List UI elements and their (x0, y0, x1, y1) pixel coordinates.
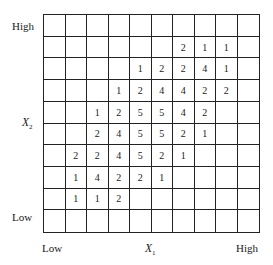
grid-cell (173, 189, 195, 211)
grid-cell (195, 167, 217, 189)
grid-cell: 4 (195, 58, 217, 80)
grid-cell: 2 (87, 145, 109, 167)
grid-cell: 1 (195, 37, 217, 59)
grid-cell: 1 (216, 37, 238, 59)
grid-cell (173, 210, 195, 232)
grid-cell (216, 167, 238, 189)
grid-cell (130, 189, 152, 211)
grid-cell: 1 (66, 167, 88, 189)
grid-cell: 1 (152, 167, 174, 189)
grid-cell (44, 124, 66, 146)
grid-cell: 5 (130, 102, 152, 124)
grid-cell (238, 102, 260, 124)
frequency-grid: 2111224112442212554224552122452114221112 (43, 14, 260, 233)
grid-cell: 5 (130, 145, 152, 167)
grid-cell (173, 167, 195, 189)
x-low-label: Low (42, 242, 62, 254)
grid-cell (44, 58, 66, 80)
grid-cell (109, 15, 131, 37)
grid-cell (216, 210, 238, 232)
grid-cell (238, 189, 260, 211)
grid-cell (238, 124, 260, 146)
grid-cell (216, 145, 238, 167)
grid-cell (66, 15, 88, 37)
grid-cell: 2 (109, 102, 131, 124)
grid-cell: 2 (87, 124, 109, 146)
grid-cell: 2 (109, 189, 131, 211)
grid-cell (66, 37, 88, 59)
grid-cell (238, 145, 260, 167)
grid-cell: 2 (173, 37, 195, 59)
grid-cell (130, 15, 152, 37)
grid-cell: 2 (173, 124, 195, 146)
grid-cell (216, 124, 238, 146)
grid-cell: 4 (109, 145, 131, 167)
grid-cell (44, 37, 66, 59)
x-high-label: High (236, 242, 258, 254)
grid-cell: 2 (130, 80, 152, 102)
grid-cell (109, 37, 131, 59)
grid-cell: 5 (152, 124, 174, 146)
grid-cell (66, 124, 88, 146)
grid-cell (44, 189, 66, 211)
grid-cell (216, 15, 238, 37)
grid-cell: 2 (130, 167, 152, 189)
grid-cell (44, 80, 66, 102)
grid-cell (87, 80, 109, 102)
grid-cell: 2 (173, 58, 195, 80)
grid-cell (238, 58, 260, 80)
grid-cell (66, 210, 88, 232)
grid-cell (195, 15, 217, 37)
grid-cell: 1 (216, 58, 238, 80)
grid-cell: 4 (173, 102, 195, 124)
grid-cell (152, 37, 174, 59)
grid-cell: 1 (87, 102, 109, 124)
grid-cell: 2 (152, 58, 174, 80)
grid-cell (130, 210, 152, 232)
grid-cell (44, 145, 66, 167)
grid-cell: 1 (173, 145, 195, 167)
grid-cell (44, 210, 66, 232)
grid-cell (66, 80, 88, 102)
grid-cell: 1 (130, 58, 152, 80)
grid-cell (152, 15, 174, 37)
grid-cell: 2 (109, 167, 131, 189)
grid-cell: 2 (152, 145, 174, 167)
grid-cell (66, 102, 88, 124)
grid-cell: 4 (173, 80, 195, 102)
grid-cell (195, 145, 217, 167)
grid-cell (109, 58, 131, 80)
grid-cell (195, 189, 217, 211)
grid-cell: 1 (109, 80, 131, 102)
grid-cell (238, 167, 260, 189)
grid-cell (87, 15, 109, 37)
grid-cell (238, 80, 260, 102)
y-high-label: High (12, 20, 34, 32)
grid-cell: 5 (152, 102, 174, 124)
grid-cell: 4 (109, 124, 131, 146)
grid-cell (66, 58, 88, 80)
grid-cell: 4 (87, 167, 109, 189)
grid-cell (152, 189, 174, 211)
grid-cell: 2 (195, 80, 217, 102)
y-low-label: Low (12, 211, 32, 223)
grid-cell (216, 189, 238, 211)
grid-cell (173, 15, 195, 37)
grid-cell: 2 (195, 102, 217, 124)
grid-cell (195, 210, 217, 232)
grid-cell (238, 210, 260, 232)
grid-cell: 1 (66, 189, 88, 211)
grid-cell (44, 15, 66, 37)
grid-cell (130, 37, 152, 59)
grid-cell (44, 102, 66, 124)
grid-cell: 1 (87, 189, 109, 211)
grid-cell (152, 210, 174, 232)
grid-cell (238, 37, 260, 59)
grid-cell: 5 (130, 124, 152, 146)
grid-cell: 2 (216, 80, 238, 102)
grid-cell (216, 102, 238, 124)
grid-cell (109, 210, 131, 232)
y-axis-label: X2 (22, 116, 33, 131)
grid-cell (238, 15, 260, 37)
grid-cell: 1 (195, 124, 217, 146)
